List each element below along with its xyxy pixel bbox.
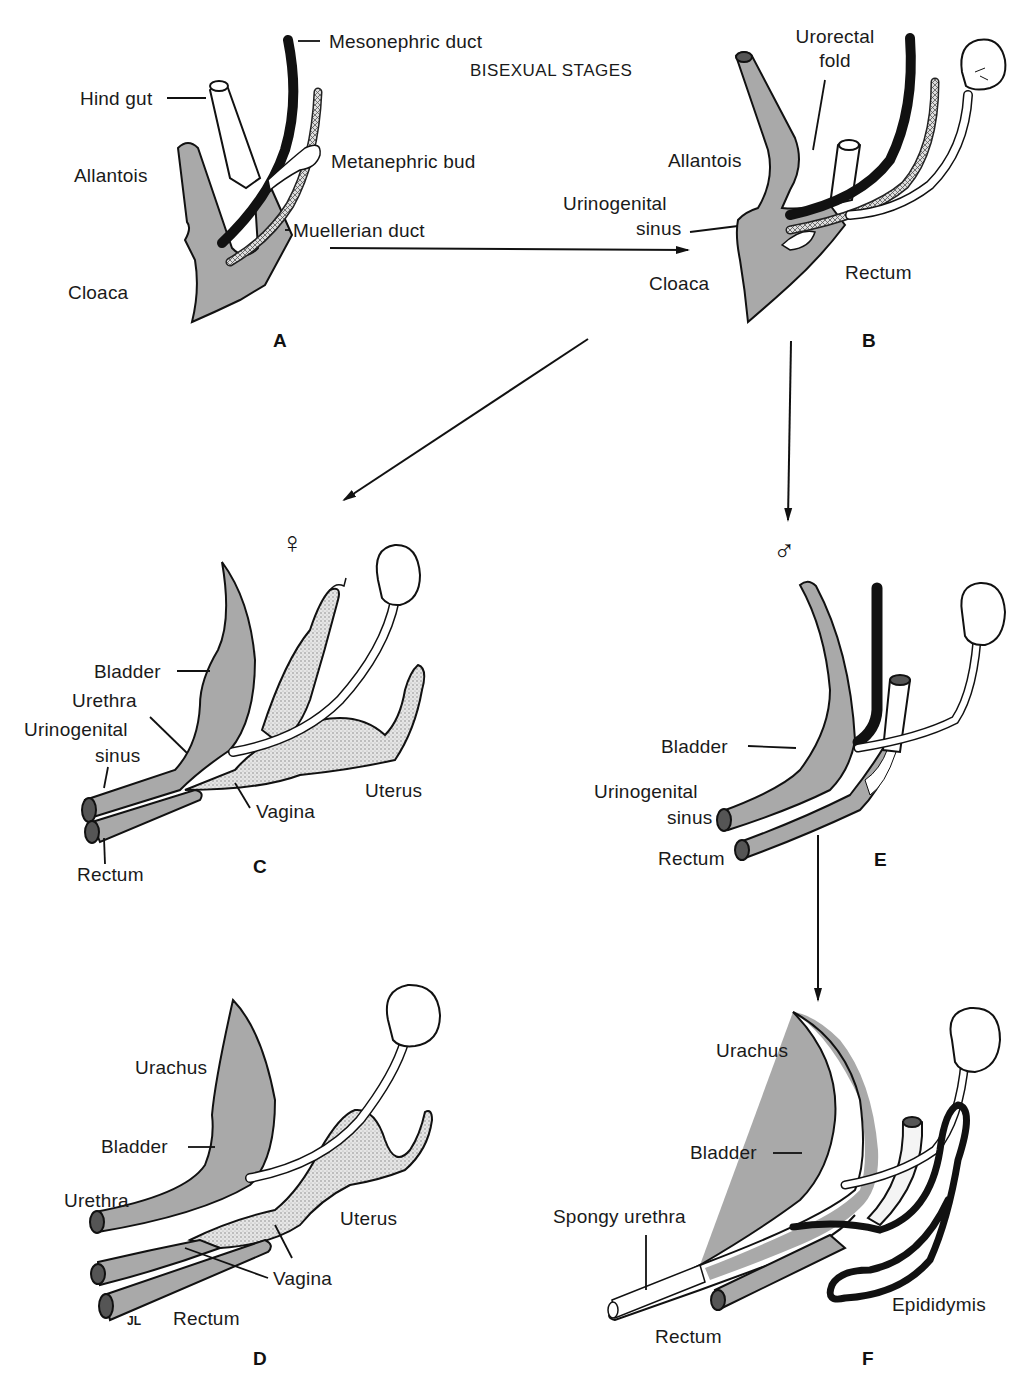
panel-letter-a: A: [273, 330, 287, 352]
label-epididymis: Epididymis: [892, 1294, 986, 1316]
label-rectum-c: Rectum: [77, 864, 144, 886]
label-mesonephric-duct: Mesonephric duct: [329, 31, 482, 53]
artist-signature: JL: [127, 1310, 141, 1332]
label-bladder-f: Bladder: [690, 1142, 757, 1164]
panel-letter-e: E: [874, 849, 887, 871]
label-muellerian-duct: Muellerian duct: [293, 220, 425, 242]
arrows: [330, 248, 818, 1000]
arrow-a-to-b: [330, 248, 688, 250]
panel-letter-d: D: [253, 1348, 267, 1370]
label-urorectal-fold-line2: fold: [790, 50, 880, 72]
label-spongy-urethra: Spongy urethra: [553, 1206, 686, 1228]
label-cloaca-a: Cloaca: [68, 282, 128, 304]
panel-f-drawing: [608, 1008, 1000, 1320]
label-urogenital-sinus-e-line1: Urinogenital: [594, 781, 698, 803]
label-rectum-f: Rectum: [655, 1326, 722, 1348]
label-bladder-d: Bladder: [101, 1136, 168, 1158]
label-rectum-b: Rectum: [845, 262, 912, 284]
label-urachus-d: Urachus: [135, 1057, 207, 1079]
label-bladder-c: Bladder: [94, 661, 161, 683]
label-rectum-d: Rectum: [173, 1308, 240, 1330]
label-urogenital-sinus-b-line1: Urinogenital: [563, 193, 667, 215]
panel-letter-f: F: [862, 1348, 874, 1370]
label-urachus-f: Urachus: [716, 1040, 788, 1062]
label-uterus-c: Uterus: [365, 780, 422, 802]
panel-a-drawing: [178, 40, 320, 322]
label-urorectal-fold-line1: Urorectal: [790, 26, 880, 48]
label-allantois-b: Allantois: [668, 150, 742, 172]
label-cloaca-b: Cloaca: [649, 273, 709, 295]
arrow-b-to-c: [344, 339, 588, 500]
label-vagina-d: Vagina: [273, 1268, 332, 1290]
label-rectum-e: Rectum: [658, 848, 725, 870]
label-allantois-a: Allantois: [74, 165, 148, 187]
female-symbol: ♀: [281, 528, 304, 558]
embryology-diagram: [0, 0, 1034, 1390]
label-metanephric-bud: Metanephric bud: [331, 151, 476, 173]
male-symbol: ♂: [773, 536, 796, 566]
label-urogenital-sinus-c-line1: Urinogenital: [24, 719, 128, 741]
label-urethra-c: Urethra: [72, 690, 137, 712]
label-vagina-c: Vagina: [256, 801, 315, 823]
label-urogenital-sinus-e-line2: sinus: [667, 807, 712, 829]
label-urogenital-sinus-c-line2: sinus: [95, 745, 140, 767]
label-urethra-d: Urethra: [64, 1190, 129, 1212]
label-bladder-e: Bladder: [661, 736, 728, 758]
arrow-b-to-e: [788, 341, 791, 520]
label-urogenital-sinus-b-line2: sinus: [636, 218, 681, 240]
label-uterus-d: Uterus: [340, 1208, 397, 1230]
diagram-title: BISEXUAL STAGES: [470, 61, 632, 81]
label-hind-gut: Hind gut: [80, 88, 152, 110]
panel-letter-c: C: [253, 856, 267, 878]
panel-e-drawing: [717, 582, 1005, 860]
panel-letter-b: B: [862, 330, 876, 352]
